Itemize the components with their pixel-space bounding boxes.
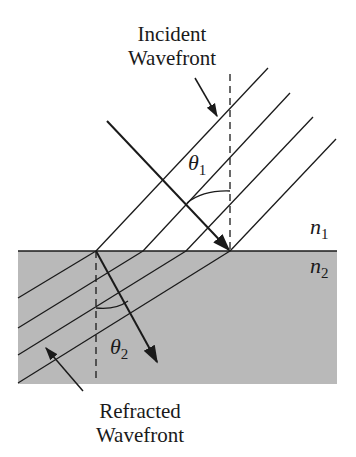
incident-label-line1: Incident xyxy=(112,22,232,46)
incident-wavefront-pointer-arrow xyxy=(195,78,217,116)
refracted-label-line2: Wavefront xyxy=(80,423,200,447)
refracted-label-line1: Refracted xyxy=(80,399,200,423)
refraction-diagram: Incident Wavefront Refracted Wavefront θ… xyxy=(0,0,356,457)
refracted-wavefront-label: Refracted Wavefront xyxy=(80,399,200,447)
theta2-label: θ2 xyxy=(110,334,128,363)
theta1-label: θ1 xyxy=(188,150,206,179)
incident-label-line2: Wavefront xyxy=(112,46,232,70)
incident-wavefront-label: Incident Wavefront xyxy=(112,22,232,70)
n1-label: n1 xyxy=(310,214,329,243)
medium-2-region xyxy=(18,251,337,384)
incident-wavefront-lines xyxy=(96,68,336,251)
incident-ray-arrow xyxy=(107,121,229,250)
n2-label: n2 xyxy=(310,253,329,282)
